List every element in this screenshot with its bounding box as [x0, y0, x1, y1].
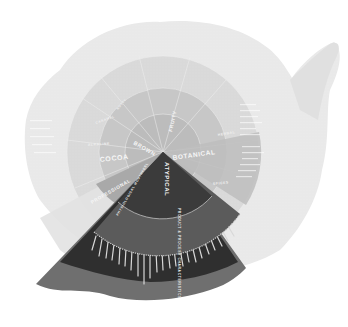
- flavor-wheel-photo: BROWN COCOA BOTANICAL ATYPICAL FRUITY PR…: [0, 0, 348, 327]
- label-atypical: ATYPICAL: [164, 162, 170, 196]
- flavor-wheel: BROWN COCOA BOTANICAL ATYPICAL FRUITY PR…: [0, 0, 348, 327]
- label-product-process: PRODUCT & PROCESS CHARACTERISTICS: [177, 208, 181, 299]
